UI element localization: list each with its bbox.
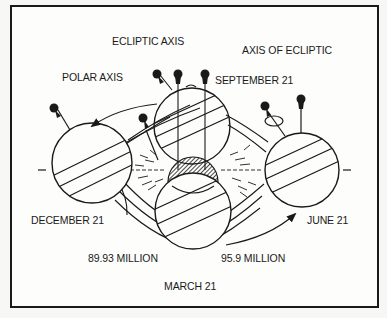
label-ecliptic-axis: ECLIPTIC AXIS [112, 35, 184, 47]
orbit-diagram: ECLIPTIC AXIS AXIS OF ECLIPTIC POLAR AXI… [0, 0, 387, 318]
label-march: MARCH 21 [164, 280, 217, 292]
label-september: SEPTEMBER 21 [215, 74, 293, 86]
label-distance-right: 95.9 MILLION [221, 252, 285, 264]
label-polar-axis: POLAR AXIS [62, 71, 123, 83]
label-december: DECEMBER 21 [31, 214, 104, 226]
label-june: JUNE 21 [307, 214, 349, 226]
label-axis-of-ecliptic: AXIS OF ECLIPTIC [242, 44, 333, 56]
label-distance-left: 89.93 MILLION [88, 252, 158, 264]
